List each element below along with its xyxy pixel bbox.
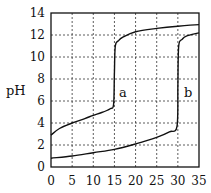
y-tick-label: 4 xyxy=(37,116,45,130)
y-tick-label: 0 xyxy=(37,160,45,174)
x-tick-label: 5 xyxy=(68,174,76,188)
y-tick-label: 2 xyxy=(37,138,45,152)
curve-b-label: b xyxy=(184,85,192,100)
y-tick-label: 6 xyxy=(37,94,45,108)
y-tick-label: 10 xyxy=(30,50,45,64)
x-tick-label: 15 xyxy=(107,174,122,188)
curve-a-label: a xyxy=(119,85,127,100)
titration-chart: 05101520253035 02468101214 pH a b xyxy=(0,0,211,193)
y-tick-label: 8 xyxy=(37,72,45,86)
y-tick-label: 12 xyxy=(30,28,45,42)
y-tick-label: 14 xyxy=(30,6,46,20)
y-axis-label: pH xyxy=(6,83,26,98)
x-tick-label: 25 xyxy=(149,174,164,188)
curve-a xyxy=(51,25,199,136)
x-tick-label: 10 xyxy=(86,174,101,188)
x-tick-label: 30 xyxy=(170,174,185,188)
y-axis-ticks: 02468101214 xyxy=(30,6,46,174)
x-tick-label: 20 xyxy=(128,174,143,188)
x-tick-label: 0 xyxy=(47,174,55,188)
x-tick-label: 35 xyxy=(191,174,206,188)
x-axis-ticks: 05101520253035 xyxy=(47,174,206,188)
